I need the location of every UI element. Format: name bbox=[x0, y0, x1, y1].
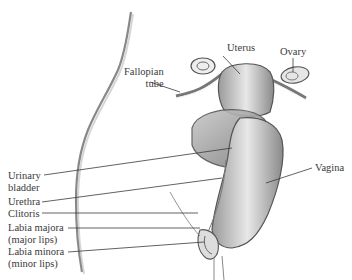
label-urinary-bladder: Urinary bladder bbox=[8, 170, 41, 194]
label-clitoris: Clitoris bbox=[8, 208, 40, 220]
label-labia-majora-line2: (major lips) bbox=[8, 234, 64, 246]
leader-labia-minora bbox=[68, 242, 204, 252]
label-labia-minora: Labia minora (minor lips) bbox=[8, 246, 64, 270]
body-contour bbox=[76, 12, 131, 272]
ovary bbox=[280, 65, 310, 86]
leader-urethra bbox=[42, 178, 222, 202]
label-labia-majora: Labia majora (major lips) bbox=[8, 222, 64, 246]
fallopian-tube-left bbox=[176, 74, 222, 96]
label-ovary: Ovary bbox=[280, 46, 306, 58]
label-vagina: Vagina bbox=[315, 162, 344, 174]
label-urinary-bladder-line1: Urinary bbox=[8, 170, 41, 182]
label-urinary-bladder-line2: bladder bbox=[8, 182, 41, 194]
leader-urinary-bladder bbox=[44, 148, 232, 175]
fimbria-left bbox=[191, 58, 215, 74]
label-uterus: Uterus bbox=[227, 42, 255, 54]
label-fallopian-tube-line1: Fallopian bbox=[124, 66, 164, 78]
label-fallopian-tube-line2: tube bbox=[124, 78, 164, 90]
label-labia-majora-line1: Labia majora bbox=[8, 222, 64, 234]
uterus bbox=[218, 64, 273, 117]
label-urethra: Urethra bbox=[8, 196, 40, 208]
label-labia-minora-line1: Labia minora bbox=[8, 246, 64, 258]
label-labia-minora-line2: (minor lips) bbox=[8, 258, 64, 270]
label-fallopian-tube: Fallopian tube bbox=[124, 66, 164, 90]
